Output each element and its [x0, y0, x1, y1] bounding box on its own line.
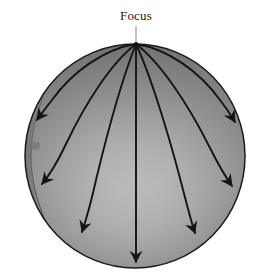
- focus-label: Focus: [120, 8, 152, 23]
- sphere-group: [25, 44, 245, 268]
- focus-point: [134, 42, 138, 46]
- sphere-top-rim-shade: [25, 44, 245, 268]
- figure-container: Focus: [0, 0, 264, 277]
- sphere-geodesic-diagram: Focus: [0, 0, 264, 277]
